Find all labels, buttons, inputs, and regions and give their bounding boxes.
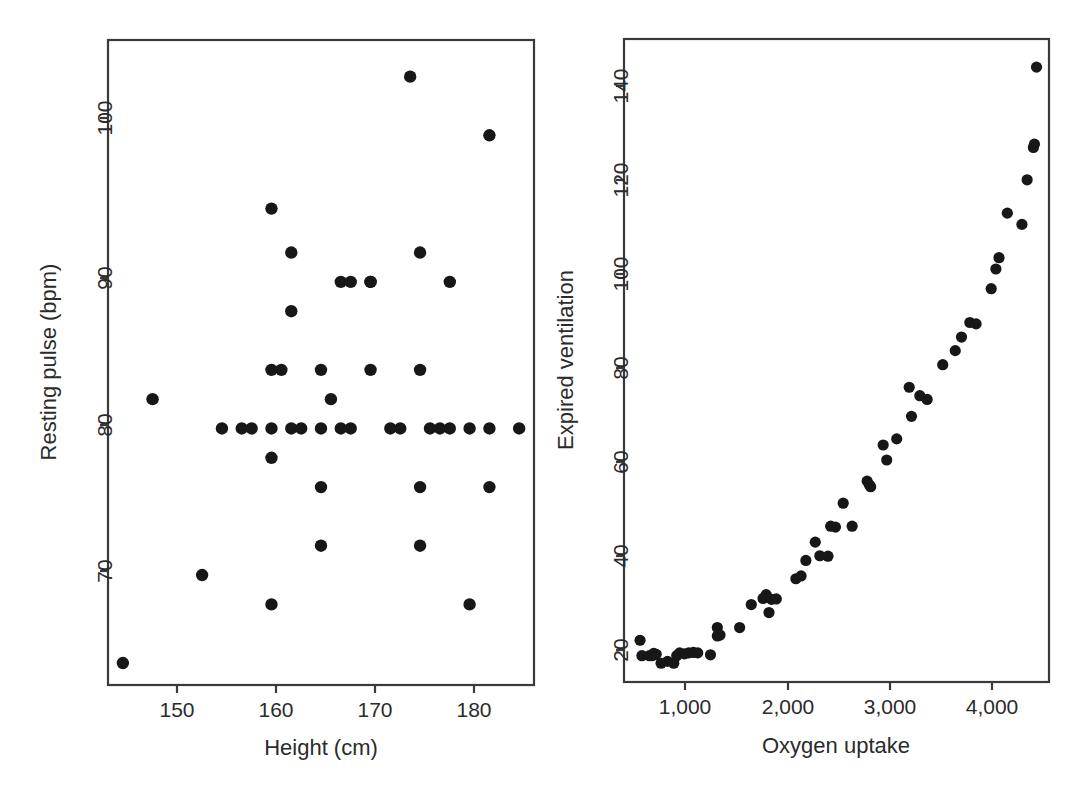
data-point — [315, 540, 327, 552]
data-point — [285, 305, 297, 317]
right-scatter-panel: 20 40 60 80 100 120 140 1,000 2,000 3,00… — [540, 0, 1085, 796]
data-point — [1002, 208, 1013, 219]
right-xtick-label: 2,000 — [762, 695, 815, 718]
left-plot-svg: 70 80 90 100 150 160 170 180 Height (cm)… — [0, 0, 545, 796]
right-data-points — [634, 62, 1042, 669]
data-point — [146, 393, 158, 405]
data-point — [414, 540, 426, 552]
data-point — [394, 422, 406, 434]
data-point — [950, 345, 961, 356]
data-point — [810, 537, 821, 548]
left-ytick-label: 100 — [93, 100, 116, 135]
data-point — [315, 422, 327, 434]
data-point — [746, 599, 757, 610]
data-point — [245, 422, 257, 434]
right-ytick-label: 140 — [609, 68, 632, 103]
data-point — [196, 569, 208, 581]
data-point — [463, 598, 475, 610]
data-point — [990, 263, 1001, 274]
data-point — [830, 522, 841, 533]
data-point — [404, 70, 416, 82]
data-point — [795, 570, 806, 581]
data-point — [891, 433, 902, 444]
data-point — [117, 657, 129, 669]
data-point — [285, 246, 297, 258]
data-point — [364, 276, 376, 288]
right-ytick-label: 120 — [609, 162, 632, 197]
data-point — [881, 454, 892, 465]
data-point — [692, 647, 703, 658]
data-point — [838, 498, 849, 509]
data-point — [734, 622, 745, 633]
right-x-axis-ticks — [685, 682, 992, 690]
data-point — [1016, 219, 1027, 230]
data-point — [345, 422, 357, 434]
data-point — [865, 481, 876, 492]
right-x-tick-labels: 1,000 2,000 3,000 4,000 — [659, 695, 1019, 718]
data-point — [444, 276, 456, 288]
data-point — [513, 422, 525, 434]
right-ytick-label: 20 — [609, 638, 632, 661]
data-point — [265, 452, 277, 464]
data-point — [265, 598, 277, 610]
data-point — [315, 481, 327, 493]
data-point — [265, 422, 277, 434]
left-ytick-label: 80 — [93, 413, 116, 436]
data-point — [483, 481, 495, 493]
data-point — [800, 555, 811, 566]
right-xtick-label: 3,000 — [864, 695, 917, 718]
right-plot-svg: 20 40 60 80 100 120 140 1,000 2,000 3,00… — [540, 0, 1085, 796]
data-point — [483, 422, 495, 434]
data-point — [904, 382, 915, 393]
data-point — [906, 411, 917, 422]
right-ytick-label: 100 — [609, 256, 632, 291]
data-point — [937, 359, 948, 370]
data-point — [463, 422, 475, 434]
left-data-points — [117, 70, 526, 669]
left-x-axis-title: Height (cm) — [264, 735, 378, 760]
data-point — [265, 202, 277, 214]
left-xtick-label: 180 — [456, 698, 491, 721]
data-point — [763, 607, 774, 618]
data-point — [345, 276, 357, 288]
right-xtick-label: 1,000 — [659, 695, 712, 718]
right-ytick-label: 80 — [609, 356, 632, 379]
data-point — [414, 364, 426, 376]
left-x-tick-labels: 150 160 170 180 — [159, 698, 491, 721]
data-point — [216, 422, 228, 434]
left-xtick-label: 160 — [258, 698, 293, 721]
data-point — [364, 364, 376, 376]
data-point — [414, 481, 426, 493]
data-point — [1029, 139, 1040, 150]
left-ytick-label: 70 — [93, 559, 116, 582]
data-point — [325, 393, 337, 405]
data-point — [414, 246, 426, 258]
data-point — [1022, 174, 1033, 185]
data-point — [634, 635, 645, 646]
data-point — [847, 521, 858, 532]
left-x-axis-ticks — [177, 685, 474, 693]
left-xtick-label: 150 — [159, 698, 194, 721]
data-point — [771, 593, 782, 604]
data-point — [705, 649, 716, 660]
data-point — [970, 318, 981, 329]
left-y-tick-labels: 70 80 90 100 — [93, 100, 116, 582]
data-point — [714, 629, 725, 640]
data-point — [483, 129, 495, 141]
left-plot-frame — [108, 40, 534, 685]
right-plot-frame — [624, 39, 1049, 682]
right-y-tick-labels: 20 40 60 80 100 120 140 — [609, 68, 632, 661]
scatter-figure: 70 80 90 100 150 160 170 180 Height (cm)… — [0, 0, 1085, 796]
data-point — [315, 364, 327, 376]
data-point — [295, 422, 307, 434]
left-scatter-panel: 70 80 90 100 150 160 170 180 Height (cm)… — [0, 0, 545, 796]
data-point — [822, 551, 833, 562]
right-x-axis-title: Oxygen uptake — [762, 733, 910, 758]
right-y-axis-title: Expired ventilation — [553, 270, 578, 450]
left-y-axis-title: Resting pulse (bpm) — [36, 264, 61, 461]
left-y-axis-ticks — [100, 118, 108, 571]
right-ytick-label: 60 — [609, 450, 632, 473]
left-ytick-label: 90 — [93, 266, 116, 289]
right-xtick-label: 4,000 — [966, 695, 1019, 718]
data-point — [993, 252, 1004, 263]
